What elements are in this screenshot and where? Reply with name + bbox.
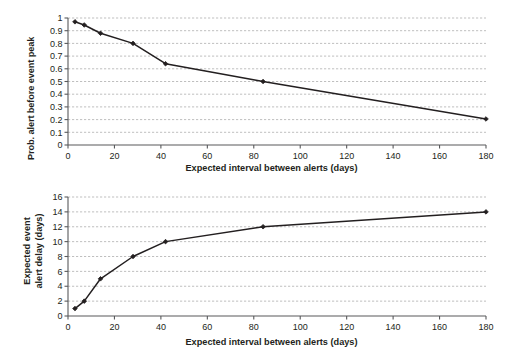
x-tick-label: 140 (386, 151, 401, 161)
y-tick-label: 0.2 (50, 115, 63, 125)
data-series-line (75, 22, 486, 119)
chart-panel-top: 00.10.20.30.40.50.60.70.80.9102040608010… (0, 0, 507, 181)
y-tick-label: 10 (52, 237, 62, 247)
x-tick-label: 120 (339, 151, 354, 161)
y-tick-label: 6 (57, 267, 62, 277)
data-point-marker (261, 79, 266, 84)
data-point-marker (484, 117, 489, 122)
x-axis-title-top: Expected interval between alerts (days) (18, 163, 507, 173)
gridlines-horizontal (68, 18, 486, 132)
y-axis-ticks: 0246810121416 (52, 192, 68, 321)
y-axis-title-bottom-line2: alert delay (days) (34, 191, 46, 311)
x-axis-title-bottom: Expected interval between alerts (days) (18, 337, 507, 347)
x-tick-label: 40 (156, 151, 166, 161)
data-point-markers (73, 210, 489, 311)
data-point-marker (484, 210, 489, 215)
x-tick-label: 60 (202, 151, 212, 161)
data-point-marker (73, 20, 78, 25)
y-axis-title-bottom-line1: Expected event (22, 191, 34, 311)
figure-container: 00.10.20.30.40.50.60.70.80.9102040608010… (0, 0, 507, 362)
x-tick-label: 180 (478, 151, 493, 161)
y-axis-ticks: 00.10.20.30.40.50.60.70.80.91 (50, 13, 68, 150)
y-tick-label: 0.8 (50, 39, 63, 49)
y-tick-label: 0 (57, 140, 62, 150)
y-tick-label: 0.3 (50, 102, 63, 112)
y-tick-label: 0.9 (50, 26, 63, 36)
x-tick-label: 140 (386, 322, 401, 332)
x-tick-label: 60 (202, 322, 212, 332)
plot-area-top: 00.10.20.30.40.50.60.70.80.9102040608010… (0, 0, 507, 181)
y-tick-label: 4 (57, 281, 62, 291)
x-tick-label: 160 (432, 151, 447, 161)
y-tick-label: 0.5 (50, 77, 63, 87)
x-tick-label: 80 (249, 151, 259, 161)
gridlines-horizontal (68, 197, 486, 301)
x-tick-label: 180 (478, 322, 493, 332)
y-tick-label: 0.7 (50, 51, 63, 61)
y-tick-label: 16 (52, 192, 62, 202)
x-tick-label: 80 (249, 322, 259, 332)
y-tick-label: 1 (57, 13, 62, 23)
chart-panel-bottom: 0246810121416020406080100120140160180 Ex… (0, 181, 507, 362)
x-tick-label: 120 (339, 322, 354, 332)
x-tick-label: 160 (432, 322, 447, 332)
x-tick-label: 0 (65, 151, 70, 161)
y-tick-label: 12 (52, 222, 62, 232)
y-tick-label: 2 (57, 296, 62, 306)
x-tick-label: 20 (109, 322, 119, 332)
y-tick-label: 0.6 (50, 64, 63, 74)
data-point-marker (163, 239, 168, 244)
x-tick-label: 100 (293, 322, 308, 332)
data-point-marker (261, 224, 266, 229)
y-tick-label: 0.4 (50, 89, 63, 99)
y-tick-label: 0.1 (50, 128, 63, 138)
y-tick-label: 8 (57, 252, 62, 262)
x-tick-label: 100 (293, 151, 308, 161)
x-tick-label: 20 (109, 151, 119, 161)
x-axis-ticks: 020406080100120140160180 (65, 145, 493, 161)
y-axis-title-bottom: Expected event alert delay (days) (22, 191, 45, 311)
y-tick-label: 0 (57, 311, 62, 321)
plot-area-bottom: 0246810121416020406080100120140160180 (0, 181, 507, 362)
x-axis-ticks: 020406080100120140160180 (65, 316, 493, 332)
y-axis-title-top: Prob. alert before event peak (26, 37, 37, 160)
y-tick-label: 14 (52, 207, 62, 217)
x-tick-label: 40 (156, 322, 166, 332)
x-tick-label: 0 (65, 322, 70, 332)
data-point-markers (73, 20, 489, 122)
